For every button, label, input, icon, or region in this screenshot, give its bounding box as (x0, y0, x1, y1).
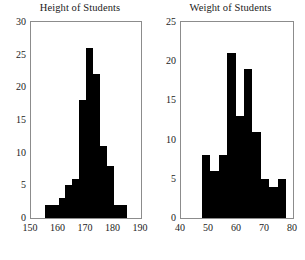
histogram-bar (65, 185, 72, 218)
x-axis-label: 170 (78, 222, 93, 233)
y-axis-label: 30 (2, 16, 26, 27)
x-axis-tick (114, 218, 115, 219)
y-axis-label: 0 (2, 212, 26, 223)
histogram-bar (227, 53, 235, 218)
plot-area-height (30, 21, 142, 219)
y-axis-tick (180, 61, 181, 62)
chart-title-weight: Weight of Students (154, 2, 305, 13)
x-axis-tick (141, 218, 142, 219)
histogram-bar (269, 187, 277, 218)
y-axis-label: 5 (2, 179, 26, 190)
histogram-bar (107, 166, 114, 218)
histogram-bar (278, 179, 286, 218)
y-axis-tick (180, 140, 181, 141)
y-axis-label: 0 (152, 212, 176, 223)
y-axis-tick (180, 179, 181, 180)
x-axis-label: 80 (287, 222, 297, 233)
histogram-bar (210, 171, 218, 218)
y-axis-tick (180, 22, 181, 23)
y-axis-tick (30, 22, 31, 23)
x-axis-label: 180 (105, 222, 120, 233)
histogram-bar (79, 100, 86, 218)
x-axis-tick (293, 218, 294, 219)
y-axis-tick (180, 218, 181, 219)
bar-series-weight (181, 22, 293, 218)
y-axis-tick (30, 218, 31, 219)
histogram-panel-height: Height of Students 051015202530150160170… (0, 0, 152, 260)
x-axis-tick (237, 218, 238, 219)
y-axis-tick (30, 55, 31, 56)
chart-title-height: Height of Students (4, 2, 156, 13)
x-axis-tick (31, 218, 32, 219)
x-axis-tick (181, 218, 182, 219)
histogram-bar (45, 205, 52, 218)
y-axis-label: 15 (2, 114, 26, 125)
x-axis-label: 150 (23, 222, 38, 233)
histogram-bar (52, 205, 59, 218)
bar-series-height (31, 22, 141, 218)
histogram-bar (219, 155, 227, 218)
y-axis-label: 25 (152, 16, 176, 27)
histogram-bar (59, 198, 66, 218)
histogram-bar (120, 205, 127, 218)
histogram-bar (72, 179, 79, 218)
histogram-bar (244, 69, 252, 218)
histogram-bar (86, 48, 93, 218)
x-axis-tick (86, 218, 87, 219)
y-axis-label: 20 (2, 81, 26, 92)
x-axis-tick (209, 218, 210, 219)
histogram-bar (93, 74, 100, 218)
y-axis-label: 10 (152, 133, 176, 144)
y-axis-tick (30, 87, 31, 88)
histogram-bar (252, 132, 260, 218)
figure-canvas: Height of Students 051015202530150160170… (0, 0, 305, 260)
x-axis-tick (265, 218, 266, 219)
histogram-bar (100, 146, 107, 218)
y-axis-label: 15 (152, 94, 176, 105)
histogram-panel-weight: Weight of Students 05101520254050607080 (152, 0, 305, 260)
y-axis-label: 25 (2, 48, 26, 59)
x-axis-label: 60 (231, 222, 241, 233)
histogram-bar (261, 179, 269, 218)
y-axis-label: 5 (152, 172, 176, 183)
y-axis-tick (30, 185, 31, 186)
y-axis-tick (30, 120, 31, 121)
histogram-bar (202, 155, 210, 218)
x-axis-tick (59, 218, 60, 219)
x-axis-label: 160 (50, 222, 65, 233)
x-axis-label: 50 (203, 222, 213, 233)
y-axis-tick (30, 153, 31, 154)
x-axis-label: 40 (175, 222, 185, 233)
histogram-bar (236, 116, 244, 218)
y-axis-label: 10 (2, 146, 26, 157)
y-axis-label: 20 (152, 55, 176, 66)
x-axis-label: 70 (259, 222, 269, 233)
y-axis-tick (180, 100, 181, 101)
x-axis-label: 190 (133, 222, 148, 233)
plot-area-weight (180, 21, 294, 219)
histogram-bar (114, 205, 121, 218)
